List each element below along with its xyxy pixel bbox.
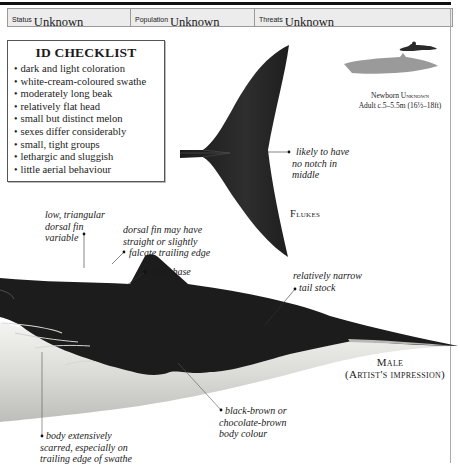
annotation-body-colour: black-brown or chocolate-brown body colo… [219,405,287,440]
leader-dot [288,151,291,154]
annotation-dorsal-fin: low, triangular dorsal fin variable [45,209,105,244]
annotation-wide-base: wide base [151,266,191,278]
annotation-fluke-notch: likely to have no notch in middle [292,146,349,181]
size-scale: Newborn Unknown Adult c.5–5.5m (16½–18ft… [355,91,445,111]
whale-silhouette-icon [344,53,438,74]
annotation-trailing-edge: dorsal fin may have straight or slightly… [123,224,210,259]
newborn-value: Unknown [401,91,429,100]
adult-value: c.5–5.5m (16½–18ft) [378,101,442,110]
annotation-tail-stock: relatively narrow tail stock [294,270,362,293]
annotation-scarring: body extensively scarred, especially on … [40,430,132,465]
whale-body-illustration [0,254,458,422]
swimmer-silhouette-icon [400,42,437,52]
male-caption: Male (Artist's impression) [345,356,435,380]
adult-label: Adult [359,101,376,110]
newborn-label: Newborn [371,91,399,100]
flukes-caption: Flukes [290,208,320,219]
